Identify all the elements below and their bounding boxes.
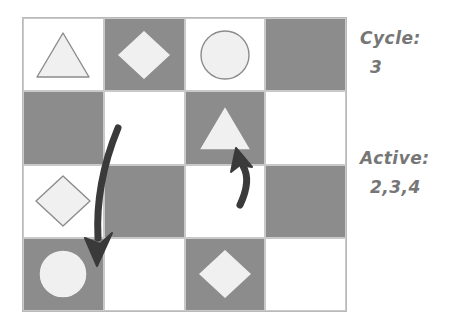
grid-cell-r4c1[interactable] [23, 238, 104, 311]
checkerboard-grid [22, 17, 347, 312]
active-value: 2,3,4 [370, 177, 451, 197]
diamond-shape [195, 246, 255, 302]
grid-cell-r3c3[interactable] [185, 165, 266, 238]
status-panel: Cycle: 3 Active: 2,3,4 [360, 0, 451, 325]
grid-cell-r2c2[interactable] [104, 91, 185, 164]
grid-cell-r4c2[interactable] [104, 238, 185, 311]
grid-cell-r1c2[interactable] [104, 18, 185, 91]
grid-cell-r4c3[interactable] [185, 238, 266, 311]
grid-cell-r4c4[interactable] [265, 238, 346, 311]
cycle-value: 3 [370, 57, 451, 77]
triangle-shape [195, 100, 255, 156]
cycle-label: Cycle: [360, 28, 451, 48]
diamond-shape [33, 173, 93, 229]
cycle-stat: Cycle: 3 [360, 28, 451, 77]
grid-cell-r2c4[interactable] [265, 91, 346, 164]
triangle-shape [33, 27, 93, 83]
grid-cell-r1c4[interactable] [265, 18, 346, 91]
grid-cell-r3c2[interactable] [104, 165, 185, 238]
board-canvas: Cycle: 3 Active: 2,3,4 [0, 0, 451, 325]
grid-cell-r1c3[interactable] [185, 18, 266, 91]
grid-cell-r2c1[interactable] [23, 91, 104, 164]
grid-cell-r1c1[interactable] [23, 18, 104, 91]
grid-cell-r3c4[interactable] [265, 165, 346, 238]
grid-cell-r3c1[interactable] [23, 165, 104, 238]
diamond-shape [114, 27, 174, 83]
grid-cell-r2c3[interactable] [185, 91, 266, 164]
active-label: Active: [360, 148, 451, 168]
circle-shape [33, 246, 93, 302]
circle-shape [195, 27, 255, 83]
active-stat: Active: 2,3,4 [360, 148, 451, 197]
